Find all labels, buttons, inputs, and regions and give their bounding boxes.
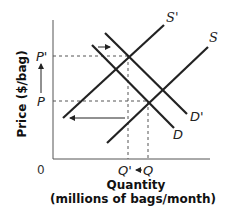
supply-demand-diagram: S' S D' D P' P Q' Q 0 Price ($/bag) Quan… [0, 0, 225, 212]
x-axis-subtitle: (millions of bags/month) [50, 192, 216, 206]
origin-label: 0 [37, 163, 45, 177]
supply-original-label: S [209, 30, 218, 45]
price-tick-p: P [37, 94, 45, 109]
demand-shifted-curve [105, 33, 187, 114]
supply-original-curve [107, 47, 208, 143]
demand-original-curve [92, 45, 174, 128]
quantity-tick-q-prime: Q' [118, 163, 132, 178]
quantity-tick-q: Q [143, 163, 153, 178]
x-axis-title: Quantity [107, 178, 166, 192]
supply-shifted-label: S' [166, 10, 178, 25]
demand-shifted-label: D' [190, 109, 204, 124]
price-tick-p-prime: P' [36, 49, 47, 64]
demand-original-label: D [173, 127, 183, 142]
y-axis-title: Price ($/bag) [15, 50, 29, 137]
